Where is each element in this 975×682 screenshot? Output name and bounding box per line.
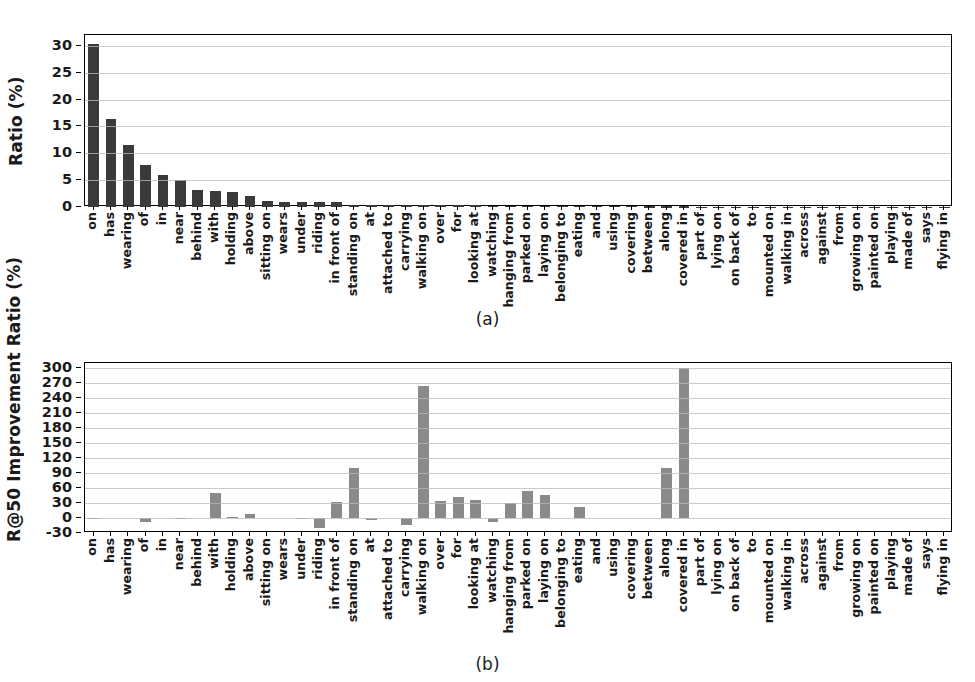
x-tick-mark — [544, 532, 545, 536]
y-tick-label: 210 — [42, 405, 72, 420]
x-tick-label: wears — [277, 538, 290, 580]
panel-b: R@50 Improvement Ratio (%) -300306090120… — [0, 344, 975, 682]
x-tick-label: lying on — [711, 212, 724, 269]
x-tick-label: above — [243, 212, 256, 255]
x-tick-mark — [909, 206, 910, 210]
x-tick-label: belonging to — [555, 212, 568, 302]
x-tick-mark — [214, 206, 215, 210]
x-tick-mark — [891, 206, 892, 210]
x-tick-label: covering — [625, 212, 638, 273]
bar — [349, 468, 360, 518]
bar — [661, 468, 672, 519]
x-tick-mark — [770, 206, 771, 210]
x-tick-label: walking on — [416, 538, 429, 615]
x-tick-mark — [822, 532, 823, 536]
x-tick-label: hanging from — [503, 538, 516, 634]
y-tick-label: 90 — [52, 465, 72, 480]
x-tick-label: flying in — [937, 538, 950, 596]
x-tick-mark — [423, 206, 424, 210]
x-tick-mark — [318, 206, 319, 210]
bar — [245, 196, 256, 207]
x-tick-mark — [735, 206, 736, 210]
gridline — [85, 488, 951, 489]
x-tick-mark — [405, 206, 406, 210]
x-tick-mark — [93, 532, 94, 536]
x-tick-mark — [596, 206, 597, 210]
x-tick-label: mounted on — [763, 538, 776, 623]
y-tick-mark — [76, 206, 81, 207]
x-tick-label: eating — [572, 212, 585, 257]
bar — [140, 165, 151, 207]
x-tick-label: behind — [191, 212, 204, 261]
y-tick-mark — [76, 427, 81, 428]
gridline — [85, 100, 951, 101]
x-tick-mark — [110, 206, 111, 210]
x-tick-label: carrying — [399, 212, 412, 271]
x-tick-label: in — [156, 212, 169, 225]
gridline — [85, 473, 951, 474]
panel-a-y-tick-labels: 051015202530 — [30, 34, 76, 206]
x-tick-mark — [197, 532, 198, 536]
y-tick-label: 10 — [52, 145, 72, 160]
panel-b-y-tick-labels: -300306090120150180210240270300 — [30, 362, 76, 532]
x-tick-mark — [561, 206, 562, 210]
y-tick-label: 180 — [42, 420, 72, 435]
x-tick-label: on — [86, 212, 99, 230]
x-tick-label: to — [746, 212, 759, 227]
x-tick-label: has — [104, 212, 117, 237]
x-tick-label: playing — [885, 538, 898, 590]
x-tick-mark — [232, 206, 233, 210]
bar — [574, 507, 585, 518]
x-tick-mark — [839, 532, 840, 536]
bar — [192, 190, 203, 207]
y-tick-mark — [76, 457, 81, 458]
y-tick-mark — [76, 487, 81, 488]
x-tick-mark — [388, 206, 389, 210]
x-tick-label: walking on — [416, 212, 429, 289]
x-tick-label: playing — [885, 212, 898, 264]
x-tick-label: on — [86, 538, 99, 556]
x-tick-label: in front of — [329, 212, 342, 284]
gridline — [85, 503, 951, 504]
bar — [227, 192, 238, 207]
x-tick-label: for — [451, 212, 464, 232]
x-tick-label: parked on — [520, 538, 533, 609]
bar — [592, 206, 603, 207]
x-tick-label: across — [798, 212, 811, 258]
x-tick-mark — [613, 206, 614, 210]
x-tick-label: and — [590, 212, 603, 238]
x-tick-mark — [787, 532, 788, 536]
y-tick-mark — [76, 472, 81, 473]
bar — [939, 207, 950, 208]
bar — [540, 206, 551, 207]
x-tick-label: covered in — [677, 212, 690, 286]
x-tick-mark — [232, 532, 233, 536]
x-tick-mark — [127, 532, 128, 536]
x-tick-mark — [301, 532, 302, 536]
x-tick-mark — [596, 532, 597, 536]
bar — [626, 206, 637, 207]
x-tick-label: attached to — [382, 538, 395, 620]
x-tick-mark — [440, 532, 441, 536]
x-tick-mark — [93, 206, 94, 210]
x-tick-label: above — [243, 538, 256, 581]
y-tick-label: 240 — [42, 390, 72, 405]
x-tick-mark — [631, 206, 632, 210]
gridline — [85, 428, 951, 429]
x-tick-mark — [579, 206, 580, 210]
y-tick-mark — [76, 152, 81, 153]
y-tick-mark — [76, 442, 81, 443]
y-tick-label: 150 — [42, 435, 72, 450]
x-tick-mark — [926, 206, 927, 210]
bar — [574, 206, 585, 207]
x-tick-label: near — [173, 538, 186, 570]
y-tick-label: 20 — [52, 91, 72, 106]
x-tick-label: holding — [225, 212, 238, 265]
x-tick-mark — [145, 532, 146, 536]
x-tick-label: against — [816, 538, 829, 591]
y-tick-label: 0 — [62, 199, 72, 214]
x-tick-label: along — [659, 212, 672, 251]
x-tick-mark — [752, 532, 753, 536]
bar — [713, 207, 724, 208]
x-tick-mark — [804, 206, 805, 210]
